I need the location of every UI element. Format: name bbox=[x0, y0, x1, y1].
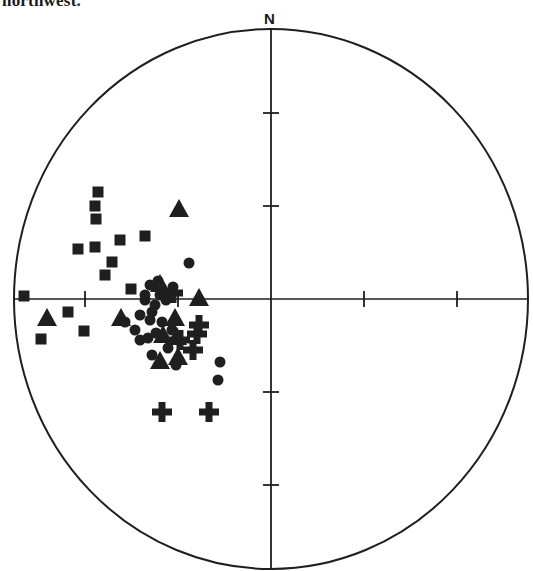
square-marker bbox=[91, 214, 102, 225]
square-marker bbox=[73, 244, 84, 255]
square-marker bbox=[93, 187, 104, 198]
circle-marker bbox=[163, 343, 174, 354]
stereonet-plot bbox=[0, 0, 533, 571]
square-marker bbox=[115, 235, 126, 246]
triangle-marker bbox=[189, 288, 209, 306]
plus-marker bbox=[190, 340, 197, 360]
square-marker bbox=[90, 242, 101, 253]
plus-marker bbox=[159, 402, 166, 422]
square-marker bbox=[100, 270, 111, 281]
square-marker bbox=[36, 334, 47, 345]
triangle-marker bbox=[169, 199, 189, 217]
circle-marker bbox=[167, 325, 178, 336]
square-marker bbox=[107, 257, 118, 268]
square-marker bbox=[126, 284, 137, 295]
plus-marker bbox=[206, 402, 213, 422]
plus-marker bbox=[177, 330, 184, 350]
circle-marker bbox=[215, 357, 226, 368]
circle-marker bbox=[140, 290, 151, 301]
circle-marker bbox=[120, 317, 131, 328]
circle-marker bbox=[135, 310, 146, 321]
circle-marker bbox=[135, 335, 146, 346]
triangle-marker bbox=[165, 308, 185, 326]
circle-marker bbox=[157, 317, 168, 328]
circle-marker bbox=[213, 375, 224, 386]
circle-marker bbox=[147, 350, 158, 361]
circle-marker bbox=[151, 328, 162, 339]
triangle-marker bbox=[37, 308, 57, 326]
square-marker bbox=[79, 326, 90, 337]
plus-marker bbox=[170, 283, 177, 303]
circle-marker bbox=[171, 360, 182, 371]
circle-marker bbox=[130, 325, 141, 336]
square-marker bbox=[63, 307, 74, 318]
square-marker bbox=[19, 291, 30, 302]
square-marker bbox=[90, 201, 101, 212]
circle-marker bbox=[184, 258, 195, 269]
circle-marker bbox=[153, 276, 164, 287]
square-marker bbox=[140, 231, 151, 242]
circle-marker bbox=[147, 307, 158, 318]
